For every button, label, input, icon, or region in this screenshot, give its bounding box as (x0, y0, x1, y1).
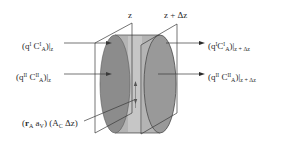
plane-label-z-plus-dz: z + Δz (164, 10, 187, 20)
inflow-label-phase2: (qII CIIA)|z (16, 70, 51, 85)
inflow-label-phase1: (qI CIA)|z (22, 39, 53, 54)
outflow-label-phase1: (qICIA)|z + Δz (208, 39, 250, 54)
outflow-label-phase2: (qII CIIA)|z + Δz (208, 70, 256, 85)
cylinder-left-face (100, 35, 130, 133)
reaction-label: (rA aV) (AC Δz) (22, 118, 78, 131)
outflow-arrow-phase1 (166, 41, 205, 45)
inflow-arrow-phase1 (64, 41, 112, 45)
cylinder-right-face (144, 35, 176, 133)
plane-label-z: z (128, 10, 132, 20)
